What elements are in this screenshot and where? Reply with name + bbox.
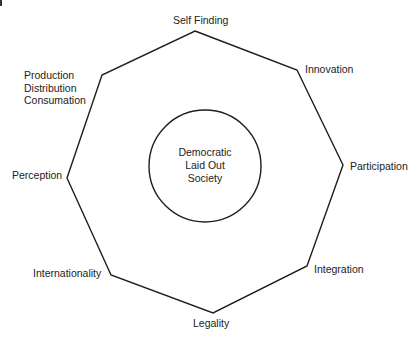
center-label-line-1: Democratic bbox=[155, 146, 255, 159]
node-label-internationality: Internationality bbox=[33, 267, 101, 280]
node-label-innovation: Innovation bbox=[305, 63, 353, 76]
node-label-self-finding: Self Finding bbox=[173, 14, 228, 27]
center-label: Democratic Laid Out Society bbox=[155, 146, 255, 185]
node-label-integration: Integration bbox=[314, 263, 364, 276]
node-label-participation: Participation bbox=[350, 160, 408, 173]
node-label-production-line-3: Consumation bbox=[24, 94, 86, 107]
node-label-production-line-2: Distribution bbox=[24, 82, 86, 95]
node-label-production-line-1: Production bbox=[24, 69, 86, 82]
node-label-perception: Perception bbox=[12, 169, 62, 182]
node-label-legality: Legality bbox=[193, 317, 229, 330]
node-label-production: Production Distribution Consumation bbox=[24, 69, 86, 107]
center-label-line-3: Society bbox=[155, 172, 255, 185]
center-label-line-2: Laid Out bbox=[155, 159, 255, 172]
